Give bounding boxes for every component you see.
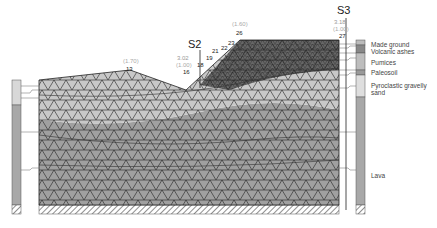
node-13: 13 — [126, 66, 133, 72]
node-26-paren: (1.60) — [232, 21, 248, 27]
station-label-s2: S2 — [188, 38, 201, 50]
node-18: 18 — [197, 62, 204, 68]
legend-lava: Lava — [371, 172, 385, 179]
legend-pumices: Pumices — [371, 59, 396, 66]
legend-pyroclastic: Pyroclastic gravelly — [371, 82, 427, 89]
bedrock-hatch — [39, 205, 339, 214]
node-13-paren: (1.70) — [123, 58, 139, 64]
s2-paren: (1.00) — [176, 62, 192, 68]
node-22: 22 — [221, 45, 228, 51]
node-21: 21 — [212, 48, 219, 54]
node-23: 23 — [228, 40, 235, 46]
s3-paren: (1.00) — [333, 26, 349, 32]
node-19: 19 — [206, 55, 213, 61]
node-16: 16 — [183, 69, 190, 75]
legend-made-ground: Made ground — [371, 41, 409, 48]
legend-paleosoil: Paleosoil — [371, 69, 397, 76]
right-borehole-column — [339, 40, 365, 214]
fem-mesh-diagram — [0, 0, 437, 228]
legend-sand: sand — [371, 89, 385, 96]
s3-value: 3.18 — [334, 19, 346, 25]
legend-volcanic-ashes: Volcanic ashes — [371, 48, 414, 55]
left-borehole-column — [12, 80, 39, 214]
station-label-s3: S3 — [337, 4, 350, 16]
node-26: 26 — [236, 30, 243, 36]
s2-value: 3.02 — [177, 55, 189, 61]
node-27: 27 — [339, 33, 346, 39]
